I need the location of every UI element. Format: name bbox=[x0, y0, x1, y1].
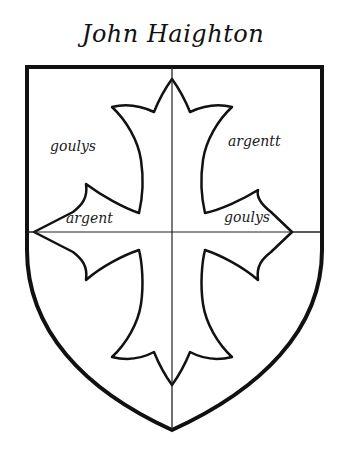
tincture-label-upper-left: goulys bbox=[50, 138, 96, 154]
tincture-label-lower-right: goulys bbox=[224, 209, 270, 225]
tincture-label-upper-right: argentt bbox=[228, 133, 281, 149]
tincture-label-lower-left: argent bbox=[66, 210, 113, 226]
shield-with-cross-icon bbox=[0, 0, 346, 467]
